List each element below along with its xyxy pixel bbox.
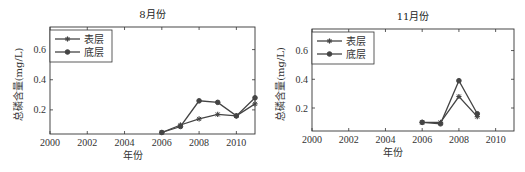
marker-dot <box>178 124 183 129</box>
marker-dot <box>253 96 258 101</box>
x-tick-label: 2000 <box>302 134 322 145</box>
marker-dot <box>438 122 443 127</box>
legend: 表层底层 <box>50 30 112 62</box>
data-point <box>196 116 201 121</box>
x-tick-label: 2004 <box>375 134 395 145</box>
marker-star <box>327 38 332 43</box>
marker-star <box>215 112 220 117</box>
chart-panel-2: 11月份2000200220042006200820100.20.40.6年份总… <box>274 11 514 158</box>
series-line <box>422 97 477 123</box>
series-surface <box>159 101 257 135</box>
marker-star <box>65 36 70 41</box>
chart-figure: 8月份2000200220042006200820100.20.40.6年份总磷… <box>0 0 525 172</box>
series-surface <box>420 94 480 125</box>
marker-dot <box>215 100 220 105</box>
data-point <box>252 101 257 106</box>
marker-star <box>252 101 257 106</box>
data-point <box>438 122 443 127</box>
x-tick-label: 2000 <box>40 137 60 148</box>
data-point <box>234 114 239 119</box>
y-tick-label: 0.2 <box>34 104 47 115</box>
data-point <box>197 99 202 104</box>
y-tick-label: 0.4 <box>34 74 47 85</box>
marker-star <box>196 116 201 121</box>
series-bottom <box>420 78 480 126</box>
x-tick-label: 2006 <box>412 134 432 145</box>
x-tick-label: 2002 <box>77 137 97 148</box>
data-point <box>253 96 258 101</box>
x-tick-label: 2002 <box>339 134 359 145</box>
marker-dot <box>457 78 462 83</box>
legend-label: 表层 <box>346 35 366 47</box>
marker-dot <box>327 52 332 57</box>
series-bottom <box>160 96 258 135</box>
data-point <box>215 100 220 105</box>
y-tick-label: 0.6 <box>34 44 47 55</box>
chart-title: 11月份 <box>397 11 430 22</box>
x-tick-label: 2010 <box>226 137 246 148</box>
data-point <box>215 112 220 117</box>
x-axis-label: 年份 <box>123 149 143 161</box>
y-tick-label: 0.4 <box>296 74 309 85</box>
data-point <box>178 124 183 129</box>
data-point <box>456 94 461 99</box>
marker-dot <box>420 120 425 125</box>
marker-star <box>456 94 461 99</box>
x-tick-label: 2010 <box>486 134 506 145</box>
marker-dot <box>234 114 239 119</box>
marker-dot <box>475 111 480 116</box>
legend-label: 底层 <box>346 48 366 60</box>
legend: 表层底层 <box>312 32 374 64</box>
data-point <box>160 130 165 135</box>
data-point <box>457 78 462 83</box>
series-line <box>422 81 477 124</box>
chart-panel-1: 8月份2000200220042006200820100.20.40.6年份总磷… <box>12 9 258 161</box>
y-axis-label: 总磷含量(mg/L) <box>12 48 24 122</box>
marker-dot <box>160 130 165 135</box>
chart-title: 8月份 <box>139 9 165 20</box>
legend-label: 底层 <box>84 46 104 58</box>
x-axis-label: 年份 <box>383 146 403 158</box>
x-tick-label: 2008 <box>449 134 469 145</box>
legend-label: 表层 <box>84 33 104 45</box>
marker-dot <box>65 50 70 55</box>
data-point <box>420 120 425 125</box>
data-point <box>475 111 480 116</box>
y-tick-label: 0.2 <box>296 103 309 114</box>
x-tick-label: 2006 <box>152 137 172 148</box>
marker-dot <box>197 99 202 104</box>
x-tick-label: 2004 <box>115 137 135 148</box>
y-tick-label: 0.6 <box>296 45 309 56</box>
y-axis-label: 总磷含量(mg/L) <box>274 47 286 121</box>
x-tick-label: 2008 <box>189 137 209 148</box>
